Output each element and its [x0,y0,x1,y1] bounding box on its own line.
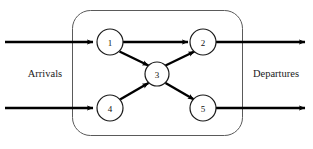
node-5-label: 5 [201,104,206,114]
diagram-canvas: 1 2 3 4 5 Arrivals Departures [0,0,313,149]
node-5[interactable]: 5 [190,95,216,121]
node-1-label: 1 [108,38,113,48]
node-3[interactable]: 3 [145,62,169,86]
node-2-label: 2 [201,38,206,48]
edge-3-to-2 [166,52,195,66]
node-3-label: 3 [155,70,160,80]
node-1[interactable]: 1 [97,29,123,55]
edge-4-to-3 [120,83,149,100]
edge-1-to-3 [120,52,149,66]
queueing-network-diagram: 1 2 3 4 5 Arrivals Departures [0,0,313,149]
node-4[interactable]: 4 [97,95,123,121]
node-2[interactable]: 2 [190,29,216,55]
edge-3-to-5 [166,83,195,100]
arrivals-label: Arrivals [28,68,62,79]
node-4-label: 4 [108,104,113,114]
departures-label: Departures [253,68,299,79]
